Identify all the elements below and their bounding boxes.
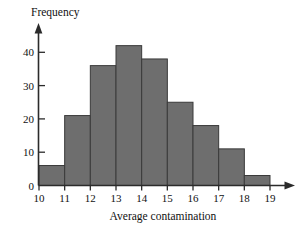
y-tick-label: 20 [23, 113, 35, 125]
x-tick-label: 18 [239, 192, 251, 204]
x-tick-label: 10 [34, 192, 46, 204]
y-tick-label: 30 [23, 80, 35, 92]
histogram-figure: 010203040 10111213141516171819 Frequency… [0, 0, 305, 231]
histogram-bar [90, 66, 116, 186]
histogram-bar [142, 59, 168, 186]
y-axis-title: Frequency [31, 6, 80, 19]
y-axis-arrow-icon [35, 23, 43, 34]
x-tick-label: 15 [162, 192, 174, 204]
histogram-bar [65, 116, 91, 186]
y-tick-label: 0 [29, 180, 35, 192]
histogram-bar [39, 166, 65, 186]
histogram-bar [193, 126, 219, 186]
x-tick-label: 11 [59, 192, 70, 204]
bars-group [39, 46, 270, 186]
x-tick-label: 16 [188, 192, 200, 204]
x-axis-arrow-icon [285, 182, 296, 190]
x-tick-label: 14 [136, 192, 148, 204]
x-tick-label: 13 [111, 192, 123, 204]
x-axis-title: Average contamination [110, 210, 217, 223]
y-tick-label: 40 [23, 46, 35, 58]
histogram-bar [219, 149, 245, 186]
x-tick-label: 17 [213, 192, 225, 204]
histogram-bar [167, 102, 193, 185]
y-tick-label: 10 [23, 146, 35, 158]
x-ticks-group: 10111213141516171819 [34, 186, 277, 205]
histogram-bar [116, 46, 142, 186]
x-axis: 10111213141516171819 [34, 182, 296, 204]
chart-canvas: 010203040 10111213141516171819 Frequency… [0, 0, 305, 231]
x-tick-label: 12 [85, 192, 96, 204]
histogram-bar [244, 176, 270, 186]
x-tick-label: 19 [265, 192, 277, 204]
